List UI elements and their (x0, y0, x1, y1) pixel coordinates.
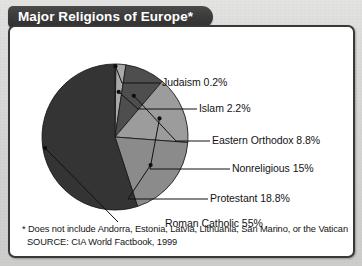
pie-chart: Judaism 0.2% Islam 2.2% Eastern Orthodox… (10, 27, 353, 222)
leader-dot-protestant (149, 163, 153, 167)
slice-label-protestant: Protestant 18.8% (210, 192, 290, 204)
leader-dot-eastern-orthodox (132, 94, 136, 98)
pie-chart-svg (10, 27, 353, 222)
footnote: * Does not include Andorra, Estonia, Lat… (22, 223, 352, 248)
slice-label-islam: Islam 2.2% (199, 102, 250, 114)
slice-label-judaism: Judaism 0.2% (162, 76, 227, 88)
leader-dot-judaism (113, 64, 117, 68)
infographic-card: Major Religions of Europe* Judaism 0.2% … (0, 0, 362, 266)
leader-dot-nonreligious (157, 116, 161, 120)
content-panel: Judaism 0.2% Islam 2.2% Eastern Orthodox… (8, 25, 355, 258)
page-title: Major Religions of Europe* (18, 9, 193, 24)
footnote-source: SOURCE: CIA World Factbook, 1999 (22, 236, 352, 249)
footnote-note: * Does not include Andorra, Estonia, Lat… (22, 223, 352, 236)
leader-dot-roman-catholic (43, 146, 47, 150)
slice-label-eastern-orthodox: Eastern Orthodox 8.8% (212, 134, 320, 146)
leader-dot-islam (117, 90, 121, 94)
slice-label-nonreligious: Nonreligious 15% (232, 162, 314, 174)
